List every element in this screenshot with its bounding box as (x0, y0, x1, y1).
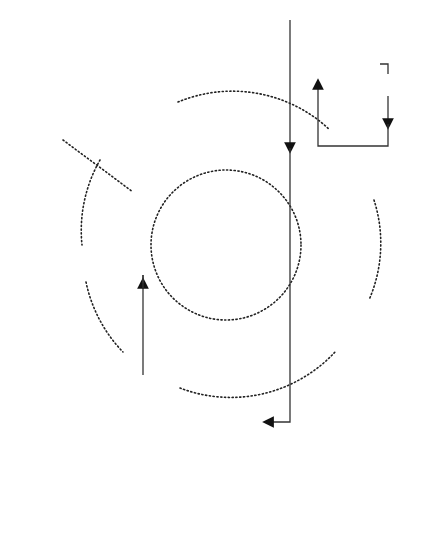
outer-arc-left-lower (86, 282, 123, 352)
outer-arc-right (369, 200, 381, 300)
diagram-canvas (0, 0, 423, 535)
outer-arc-bottom (180, 352, 335, 397)
outer-arc-top (178, 91, 330, 130)
dotted-tick (63, 140, 133, 192)
inner-circle (151, 170, 301, 320)
outer-arc-left-upper (81, 160, 100, 245)
